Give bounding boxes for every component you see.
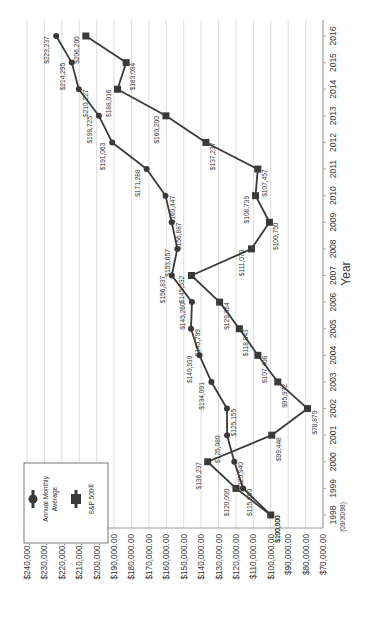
series-lines: [53, 33, 311, 519]
legend-square-icon: [71, 494, 81, 504]
category-tick-label: 2008: [328, 239, 338, 258]
data-label: $118,043: [242, 329, 249, 356]
square-marker: [82, 33, 89, 40]
y-tick-label: $190,000.00: [110, 534, 119, 580]
data-label: $107,457: [261, 169, 268, 197]
x-axis-title: Year: [339, 261, 353, 285]
data-label: $153,657: [164, 249, 171, 277]
category-sublabel: (09/30/98): [339, 502, 347, 532]
data-label: $188,016: [105, 89, 112, 117]
category-tick-label: 2011: [328, 160, 338, 179]
square-marker: [162, 112, 169, 119]
category-tick-label: 2004: [328, 346, 338, 365]
data-label: $145,260: [179, 302, 186, 330]
circle-marker: [109, 139, 115, 145]
legend-box: [24, 463, 108, 543]
data-label: $183,034: [129, 63, 136, 91]
data-label: $214,295: [59, 63, 66, 91]
y-tick-label: $110,000.00: [249, 534, 258, 579]
category-tick-label: 1998: [328, 505, 338, 524]
data-label: $95,972: [281, 384, 288, 408]
category-tick-label: 2002: [328, 399, 338, 418]
circle-marker: [53, 33, 59, 39]
data-label: $134,091: [198, 382, 205, 410]
data-label: $145,799: [194, 329, 201, 357]
category-tick-label: 2007: [328, 266, 338, 285]
square-marker: [248, 245, 255, 252]
circle-marker: [189, 299, 195, 305]
data-label: $120,000: [223, 488, 230, 516]
data-label: $206,200: [73, 36, 80, 64]
category-tick-label: 1999: [328, 479, 338, 498]
data-label: $136,237: [195, 462, 202, 490]
y-tick-label: $160,000.00: [162, 534, 171, 580]
square-marker: [114, 86, 121, 93]
data-label: $100,750: [272, 222, 279, 250]
category-tick-label: 2000: [328, 452, 338, 471]
y-tick-label: $140,000.00: [197, 534, 206, 580]
data-label: $223,237: [43, 36, 50, 64]
y-tick-label: $150,000.00: [180, 534, 189, 580]
legend-label-annual-monthly-average-line2: Average: [51, 486, 59, 511]
data-label: $171,288: [134, 169, 141, 197]
category-tick-label: 2016: [328, 26, 338, 45]
category-tick-label: 2012: [328, 133, 338, 152]
circle-marker: [144, 166, 150, 172]
data-label: $137,237: [209, 142, 216, 170]
y-tick-label: $120,000.00: [232, 534, 241, 580]
data-label: $156,837: [159, 275, 166, 303]
data-label: $198,725: [86, 116, 93, 144]
category-tick-label: 2014: [328, 80, 338, 99]
category-tick-label: 2015: [328, 53, 338, 72]
y-tick-label: $90,000.00: [284, 534, 293, 575]
legend: Annual MonthlyAverageS&P 500®: [24, 463, 108, 543]
data-label: $210,227: [82, 89, 89, 117]
legend-label-annual-monthly-average: Annual Monthly: [42, 476, 50, 522]
data-label: $191,063: [99, 142, 106, 170]
data-label: $107,408: [261, 355, 268, 383]
circle-marker: [208, 379, 214, 385]
data-label: $120,940: [237, 462, 244, 490]
y-tick-label: $170,000.00: [145, 534, 154, 580]
legend-label-sp500: S&P 500®: [88, 483, 95, 514]
y-tick-label: $70,000.00: [319, 534, 328, 575]
data-label: $108,739: [243, 196, 250, 224]
data-label: $156,887: [175, 222, 182, 250]
data-label: $78,879: [311, 410, 318, 434]
data-label: $100,000: [274, 515, 281, 543]
category-tick-label: 2009: [328, 213, 338, 232]
category-tick-label: 2010: [328, 186, 338, 205]
data-label: $160,447: [169, 196, 176, 224]
y-tick-label: $180,000.00: [127, 534, 136, 580]
y-tick-label: $80,000.00: [302, 534, 311, 575]
data-label: $115,890: [246, 489, 253, 516]
data-label: $125,080: [214, 435, 221, 463]
square-marker: [204, 458, 211, 465]
data-label: $125,155: [230, 408, 237, 436]
category-tick-label: 2005: [328, 319, 338, 338]
category-tick-label: 2006: [328, 292, 338, 311]
data-label: $140,930: [186, 355, 193, 383]
data-label: $99,448: [275, 437, 282, 461]
category-tick-label: 2003: [328, 372, 338, 391]
data-label: $160,200: [153, 116, 160, 144]
category-tick-label: 2013: [328, 106, 338, 125]
data-label: $111,073: [238, 249, 245, 276]
category-tick-label: 2001: [328, 425, 338, 444]
chart-canvas: $240,000.00$230,000.00$220,000.00$210,00…: [0, 0, 365, 625]
rotated-line-chart: $240,000.00$230,000.00$220,000.00$210,00…: [0, 0, 365, 625]
y-tick-label: $130,000.00: [215, 534, 224, 580]
data-label: $129,364: [223, 302, 230, 330]
data-label: $145,532: [178, 275, 185, 303]
circle-marker: [96, 113, 102, 119]
square-marker: [188, 272, 195, 279]
square-marker: [252, 192, 259, 199]
legend-circle-icon: [29, 495, 38, 504]
